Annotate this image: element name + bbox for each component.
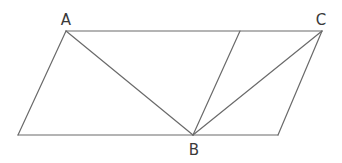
vertex-labels: A C B — [61, 11, 326, 159]
segment-DB — [193, 31, 240, 135]
parallelogram-diagram: A C B — [0, 0, 342, 163]
segment-CB — [193, 31, 322, 135]
segment-AB — [66, 31, 193, 135]
label-A: A — [61, 11, 72, 29]
left-edge — [18, 31, 66, 135]
label-C: C — [316, 11, 326, 29]
right-edge — [278, 31, 322, 135]
segments — [18, 31, 322, 135]
label-B: B — [189, 141, 199, 159]
